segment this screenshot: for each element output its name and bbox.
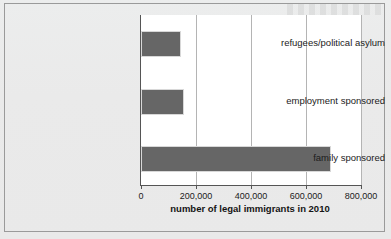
x-axis-tick (361, 185, 362, 189)
x-axis-tick-label: 200,000 (180, 191, 213, 201)
chart-figure: 0200,000400,000600,000800,000 refugees/p… (0, 0, 391, 239)
bar-refugees-political-asylum (141, 31, 181, 57)
x-axis-tick (251, 185, 252, 189)
x-axis-tick-label: 0 (138, 191, 143, 201)
x-axis-tick-label: 600,000 (290, 191, 323, 201)
x-axis-tick (196, 185, 197, 189)
category-label-family: family sponsored (251, 152, 385, 163)
category-label-employment: employment sponsored (251, 95, 385, 106)
bar-employment-sponsored (141, 89, 184, 115)
x-axis-tick-label: 800,000 (345, 191, 378, 201)
x-axis-tick (141, 185, 142, 189)
x-axis-title: number of legal immigrants in 2010 (140, 203, 360, 214)
x-axis-tick-label: 400,000 (235, 191, 268, 201)
category-label-refugees: refugees/political asylum (251, 37, 385, 48)
x-axis-tick (306, 185, 307, 189)
